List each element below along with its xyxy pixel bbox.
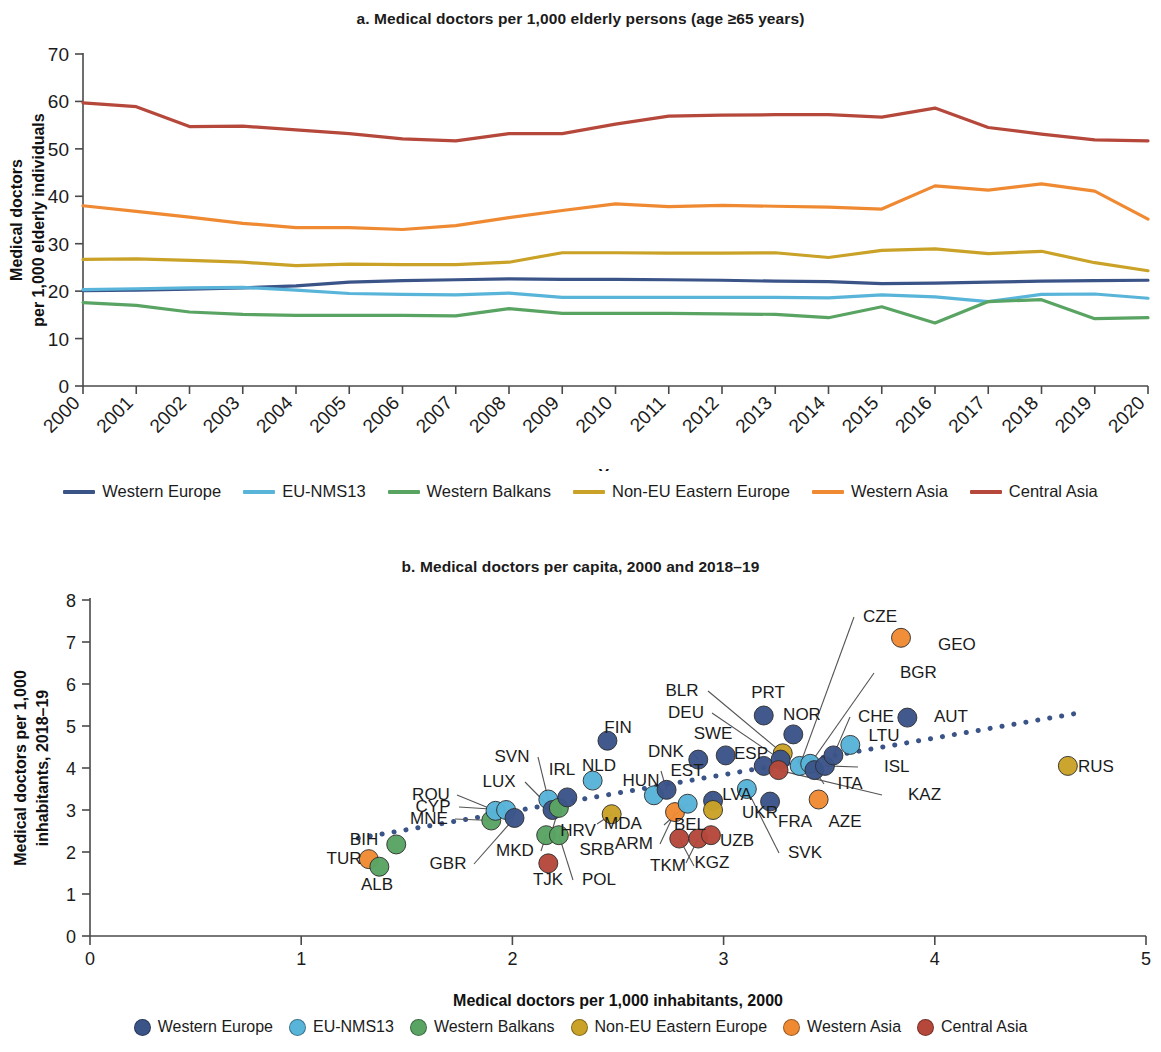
x-tick-label-year: 2002 <box>146 392 191 437</box>
panel-b: b. Medical doctors per capita, 2000 and … <box>0 552 1161 1052</box>
legend-dot-swatch <box>571 1019 588 1036</box>
legend-label: Central Asia <box>1009 482 1098 501</box>
legend-item-western-balkans: Western Balkans <box>410 1018 555 1036</box>
point-label-svn: SVN <box>495 747 530 766</box>
y-tick-label-b: 8 <box>66 591 76 611</box>
legend-item-eu-nms13: EU-NMS13 <box>243 482 365 501</box>
point-label-est: EST <box>670 761 703 780</box>
point-label-cze: CZE <box>863 607 897 626</box>
scatter-point-nor[interactable] <box>784 725 803 744</box>
legend-dot-swatch <box>917 1019 934 1036</box>
x-tick-label-year: 2009 <box>518 392 563 437</box>
point-label-svk: SVK <box>788 843 823 862</box>
x-tick-label-year: 2001 <box>92 392 137 437</box>
point-label-mne: MNE <box>410 809 448 828</box>
legend-dot-swatch <box>134 1019 151 1036</box>
scatter-point-ukr[interactable] <box>704 801 723 820</box>
point-label-bel: BEL <box>674 815 706 834</box>
y-tick-label-b: 2 <box>66 843 76 863</box>
point-label-esp: ESP <box>734 744 768 763</box>
line-series-central-asia <box>83 103 1148 141</box>
point-label-blr: BLR <box>665 681 698 700</box>
y-axis-title-a-line2: per 1,000 elderly individuals <box>30 113 47 327</box>
scatter-point-prt[interactable] <box>754 706 773 725</box>
point-label-mkd: MKD <box>496 841 534 860</box>
scatter-point-ltu[interactable] <box>841 735 860 754</box>
y-tick-label-b: 7 <box>66 633 76 653</box>
x-tick-label-year: 2000 <box>39 392 84 437</box>
x-tick-label-b: 5 <box>1141 949 1151 969</box>
point-label-tur: TUR <box>327 849 362 868</box>
line-series-non-eu-eastern-europe <box>83 249 1148 271</box>
point-label-gbr: GBR <box>430 854 467 873</box>
scatter-point-geo[interactable] <box>892 628 911 647</box>
legend-label: Western Europe <box>158 1018 273 1036</box>
y-tick-label-b: 0 <box>66 927 76 947</box>
panel-b-title: b. Medical doctors per capita, 2000 and … <box>0 552 1161 576</box>
legend-label: Non-EU Eastern Europe <box>595 1018 768 1036</box>
legend-item-western-asia: Western Asia <box>783 1018 901 1036</box>
scatter-point-irl[interactable] <box>558 788 577 807</box>
x-tick-label-year: 2005 <box>305 392 350 437</box>
y-tick-label-a: 30 <box>48 234 69 255</box>
x-tick-label-year: 2011 <box>626 392 670 436</box>
x-tick-label-b: 4 <box>930 949 940 969</box>
scatter-point-swe[interactable] <box>716 746 735 765</box>
x-tick-label-b: 3 <box>719 949 729 969</box>
x-tick-label-year: 2017 <box>944 392 989 437</box>
legend-line-swatch <box>63 490 95 494</box>
line-series-eu-nms13 <box>83 287 1148 301</box>
point-label-pol: POL <box>582 870 616 889</box>
point-label-hun: HUN <box>623 771 660 790</box>
legend-line-swatch <box>388 490 420 494</box>
legend-line-swatch <box>573 490 605 494</box>
point-label-ita: ITA <box>837 774 863 793</box>
x-tick-label-year: 2013 <box>731 392 776 437</box>
legend-panel-b: Western EuropeEU-NMS13Western BalkansNon… <box>0 1018 1161 1036</box>
scatter-point-aze[interactable] <box>809 790 828 809</box>
legend-label: Western Balkans <box>434 1018 555 1036</box>
point-label-hrv: HRV <box>560 821 596 840</box>
legend-item-western-europe: Western Europe <box>134 1018 273 1036</box>
scatter-point-kaz[interactable] <box>769 761 788 780</box>
point-label-rus: RUS <box>1078 757 1114 776</box>
point-label-ukr: UKR <box>742 803 778 822</box>
legend-panel-a: Western EuropeEU-NMS13Western BalkansNon… <box>0 482 1161 501</box>
point-label-uzb: UZB <box>720 831 754 850</box>
line-series-western-asia <box>83 184 1148 230</box>
line-chart-a: 0102030405060702000200120022003200420052… <box>0 36 1161 471</box>
scatter-point-che[interactable] <box>824 746 843 765</box>
legend-item-non-eu-eastern-europe: Non-EU Eastern Europe <box>573 482 790 501</box>
point-label-ltu: LTU <box>869 726 900 745</box>
legend-label: EU-NMS13 <box>313 1018 394 1036</box>
scatter-point-est[interactable] <box>657 780 676 799</box>
point-label-mda: MDA <box>604 814 642 833</box>
point-label-arm: ARM <box>615 834 653 853</box>
scatter-point-gbr[interactable] <box>505 808 524 827</box>
x-tick-label-year: 2003 <box>199 392 244 437</box>
scatter-point-rus[interactable] <box>1058 756 1077 775</box>
scatter-point-bel[interactable] <box>678 794 697 813</box>
y-tick-label-a: 60 <box>48 91 69 112</box>
point-label-srb: SRB <box>580 840 615 859</box>
scatter-point-bih[interactable] <box>387 835 406 854</box>
point-label-nor: NOR <box>783 705 821 724</box>
scatter-point-alb[interactable] <box>370 857 389 876</box>
x-tick-label-b: 1 <box>296 949 306 969</box>
legend-item-central-asia: Central Asia <box>917 1018 1027 1036</box>
y-tick-label-a: 10 <box>48 329 69 350</box>
point-label-deu: DEU <box>668 703 704 722</box>
line-series-western-balkans <box>83 300 1148 323</box>
legend-label: Western Asia <box>807 1018 901 1036</box>
y-axis-title-a-line1: Medical doctors <box>8 159 25 281</box>
scatter-point-aut[interactable] <box>898 708 917 727</box>
y-tick-label-b: 1 <box>66 885 76 905</box>
y-tick-label-b: 3 <box>66 801 76 821</box>
y-tick-label-a: 40 <box>48 186 69 207</box>
x-tick-label-year: 2006 <box>359 392 404 437</box>
point-label-bih: BIH <box>350 830 378 849</box>
x-tick-label-year: 2015 <box>838 392 883 437</box>
legend-dot-swatch <box>289 1019 306 1036</box>
point-label-kaz: KAZ <box>908 785 941 804</box>
point-label-fin: FIN <box>604 718 631 737</box>
